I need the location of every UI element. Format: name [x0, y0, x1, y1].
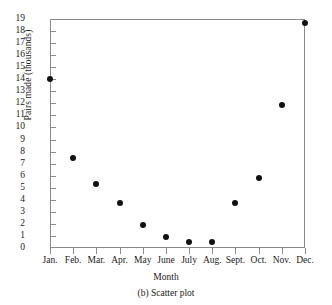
x-tick-label: Sept. [226, 256, 245, 266]
data-point [279, 102, 285, 108]
x-tick-mark [189, 248, 190, 254]
y-tick-mark [50, 152, 56, 153]
x-tick-mark [305, 248, 306, 254]
data-point [163, 234, 169, 240]
y-tick-label: 3 [3, 207, 25, 217]
x-tick-label: Apr. [111, 256, 128, 266]
plot-area [50, 19, 305, 248]
x-tick-mark [166, 248, 167, 254]
y-tick-mark [50, 127, 56, 128]
data-point [117, 200, 123, 206]
y-tick-label: 17 [3, 38, 25, 48]
x-tick-label: July [181, 256, 197, 266]
y-tick-mark [50, 200, 56, 201]
y-tick-label: 14 [3, 75, 25, 85]
x-tick-label: Dec. [296, 256, 314, 266]
x-tick-label: Feb. [65, 256, 82, 266]
x-tick-label: Nov. [273, 256, 291, 266]
y-tick-mark [50, 236, 56, 237]
x-tick-label: Oct. [251, 256, 267, 266]
y-tick-label: 18 [3, 26, 25, 36]
y-tick-mark [50, 103, 56, 104]
y-tick-label: 0 [3, 243, 25, 253]
figure-caption: (b) Scatter plot [0, 288, 332, 298]
y-tick-label: 16 [3, 50, 25, 60]
y-tick-mark [50, 212, 56, 213]
x-tick-mark [143, 248, 144, 254]
y-tick-label: 5 [3, 183, 25, 193]
x-tick-mark [120, 248, 121, 254]
y-tick-mark [50, 176, 56, 177]
y-tick-label: 11 [3, 111, 25, 121]
x-axis-label: Month [0, 272, 332, 282]
x-tick-mark [259, 248, 260, 254]
x-tick-label: Jan. [42, 256, 57, 266]
y-tick-label: 6 [3, 171, 25, 181]
x-tick-label: May [134, 256, 151, 266]
x-tick-label: Mar. [88, 256, 106, 266]
data-point [186, 239, 192, 245]
y-tick-mark [50, 91, 56, 92]
y-tick-mark [50, 140, 56, 141]
x-tick-mark [96, 248, 97, 254]
y-tick-label: 9 [3, 135, 25, 145]
y-tick-mark [50, 55, 56, 56]
data-point [140, 222, 146, 228]
y-tick-label: 1 [3, 231, 25, 241]
x-tick-mark [212, 248, 213, 254]
y-tick-mark [50, 31, 56, 32]
y-tick-mark [50, 188, 56, 189]
x-tick-label: June [157, 256, 174, 266]
y-tick-label: 19 [3, 14, 25, 24]
data-point [256, 175, 262, 181]
y-tick-mark [50, 67, 56, 68]
y-tick-label: 13 [3, 87, 25, 97]
y-tick-mark [50, 224, 56, 225]
y-tick-label: 10 [3, 123, 25, 133]
x-tick-mark [235, 248, 236, 254]
data-point [302, 20, 308, 26]
y-tick-mark [50, 43, 56, 44]
y-tick-label: 2 [3, 219, 25, 229]
x-tick-mark [50, 248, 51, 254]
x-tick-mark [73, 248, 74, 254]
x-tick-mark [282, 248, 283, 254]
y-tick-mark [50, 164, 56, 165]
y-tick-label: 7 [3, 159, 25, 169]
x-tick-label: Aug. [203, 256, 222, 266]
scatter-plot-figure: Pairs made (thousands) 01234567891011121… [0, 0, 332, 305]
y-tick-mark [50, 115, 56, 116]
y-tick-label: 12 [3, 99, 25, 109]
data-point [70, 155, 76, 161]
y-tick-label: 8 [3, 147, 25, 157]
y-tick-label: 15 [3, 62, 25, 72]
y-tick-label: 4 [3, 195, 25, 205]
